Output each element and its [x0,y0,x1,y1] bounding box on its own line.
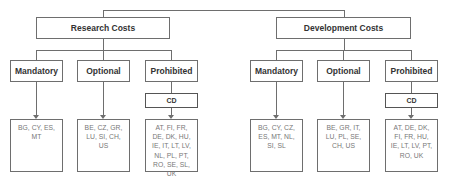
research-optional-countries: BE, CZ, GR, LU, SI, CH, US [77,119,130,172]
branch-drop [343,50,344,60]
connector-line [411,82,412,93]
top-connector-left-drop [103,10,104,17]
development-optional-node: Optional [317,60,370,82]
countries-text: AT, DE, DK, FI, FR, HU, IE, LT, LV, PT, … [390,123,433,160]
research-cd-label: CD [166,97,176,104]
branch-drop [276,50,277,60]
research-costs-stem [103,39,104,50]
research-prohibited-label: Prohibited [150,66,192,76]
development-cd-label: CD [406,97,416,104]
research-costs-label: Research Costs [71,23,135,33]
research-optional-node: Optional [77,60,130,82]
development-cd-node: CD [385,93,438,108]
arrow-line [343,82,344,115]
countries-text: BG, CY, ES, MT [15,123,58,141]
branch-drop [171,50,172,60]
arrow-line [103,82,104,115]
development-mandatory-label: Mandatory [255,66,298,76]
research-prohibited-node: Prohibited [145,60,198,82]
countries-text: AT, FI, FR, DE, DK, HU, IE, IT, LT, LV, … [150,123,193,178]
branch-drop [103,50,104,60]
arrow-line [411,108,412,115]
development-optional-label: Optional [326,66,360,76]
development-mandatory-node: Mandatory [250,60,303,82]
development-prohibited-node: Prohibited [385,60,438,82]
connector-line [171,82,172,93]
countries-text: BE, CZ, GR, LU, SI, CH, US [82,123,125,151]
research-mandatory-label: Mandatory [15,66,58,76]
development-mandatory-countries: BG, CY, CZ, ES, MT, NL, SI, SL [250,119,303,172]
arrow-line [276,82,277,115]
research-mandatory-node: Mandatory [10,60,63,82]
branch-drop [36,50,37,60]
research-cd-node: CD [145,93,198,108]
top-connector-right-drop [344,10,345,17]
countries-text: BE, GR, IT, LU, PL, SE, CH, US [322,123,365,151]
research-prohibited-countries: AT, FI, FR, DE, DK, HU, IE, IT, LT, LV, … [145,119,198,172]
countries-text: BG, CY, CZ, ES, MT, NL, SI, SL [255,123,298,151]
development-costs-stem [344,39,345,50]
research-mandatory-countries: BG, CY, ES, MT [10,119,63,172]
research-costs-branch [36,50,172,51]
development-prohibited-label: Prohibited [390,66,432,76]
branch-drop [411,50,412,60]
research-optional-label: Optional [86,66,120,76]
arrow-line [36,82,37,115]
development-optional-countries: BE, GR, IT, LU, PL, SE, CH, US [317,119,370,172]
development-costs-label: Development Costs [304,23,383,33]
development-costs-node: Development Costs [276,17,411,39]
arrow-line [171,108,172,115]
top-connector-line [103,10,345,11]
development-prohibited-countries: AT, DE, DK, FI, FR, HU, IE, LT, LV, PT, … [385,119,438,172]
research-costs-node: Research Costs [36,17,170,39]
development-costs-branch [276,50,412,51]
